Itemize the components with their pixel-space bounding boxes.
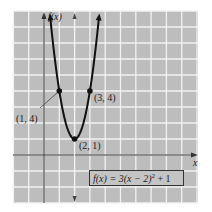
point-label-1-4: (1, 4): [16, 113, 38, 125]
data-point: [87, 88, 93, 94]
data-point: [72, 136, 78, 142]
y-axis-label: f(x): [48, 11, 63, 23]
equation-label: f(x) = 3(x − 2)2 + 1: [93, 172, 171, 185]
data-point: [57, 88, 63, 94]
parabola-chart: (1, 4) (3, 4) (2, 1) f(x) x f(x) = 3(x −…: [0, 0, 212, 212]
x-axis-label: x: [192, 157, 198, 168]
point-label-2-1: (2, 1): [79, 140, 101, 152]
point-label-3-4: (3, 4): [94, 92, 116, 104]
